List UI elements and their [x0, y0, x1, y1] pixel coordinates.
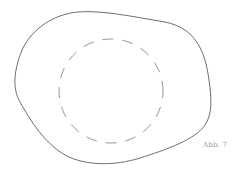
outer-blob-shape: [15, 12, 211, 164]
figure-caption: Abb. 7: [203, 141, 227, 149]
inner-dashed-circle: [59, 39, 163, 143]
diagram-canvas: [0, 0, 239, 176]
